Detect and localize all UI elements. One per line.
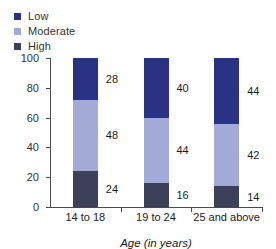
legend-item-moderate: Moderate	[14, 24, 75, 39]
x-category-label: 19 to 24	[121, 212, 192, 223]
bar-segment-moderate[interactable]: 42	[214, 124, 239, 187]
bar-segment-high[interactable]: 16	[144, 183, 169, 207]
legend-swatch-high-icon	[14, 43, 21, 50]
y-tick-label-0: 0	[33, 202, 39, 213]
bar-segment-low[interactable]: 44	[214, 58, 239, 124]
bar-25-and-above[interactable]: 444214	[214, 58, 239, 207]
y-tick-label-100: 100	[21, 53, 39, 64]
y-tick-80: 80	[46, 88, 51, 89]
x-tick-3	[262, 207, 263, 212]
legend-swatch-low-icon	[14, 13, 21, 20]
bar-14-to-18[interactable]: 284824	[73, 58, 98, 207]
bar-value-label: 14	[247, 191, 259, 202]
y-tick-label-60: 60	[27, 113, 39, 124]
legend-label-high: High	[28, 41, 51, 52]
legend-swatch-moderate-icon	[14, 28, 21, 35]
bar-value-label: 48	[106, 130, 118, 141]
legend-label-low: Low	[28, 11, 48, 22]
y-tick-label-20: 20	[27, 172, 39, 183]
bar-value-label: 42	[247, 149, 259, 160]
bar-19-to-24[interactable]: 404416	[144, 58, 169, 207]
bar-segment-low[interactable]: 28	[73, 58, 98, 100]
bar-value-label: 40	[177, 82, 189, 93]
bar-segment-moderate[interactable]: 44	[144, 118, 169, 184]
plot-area: 020406080100 284824404416444214 14 to 18…	[50, 58, 262, 207]
y-tick-100: 100	[46, 58, 51, 59]
y-tick-label-80: 80	[27, 83, 39, 94]
y-axis-line	[50, 58, 51, 207]
bar-segment-high[interactable]: 14	[214, 186, 239, 207]
bar-segment-moderate[interactable]: 48	[73, 100, 98, 172]
x-category-label: 25 and above	[191, 212, 262, 223]
bar-value-label: 44	[177, 145, 189, 156]
x-axis-title: Age (in years)	[50, 237, 262, 249]
legend-item-low: Low	[14, 9, 75, 24]
y-tick-20: 20	[46, 177, 51, 178]
y-tick-60: 60	[46, 118, 51, 119]
y-tick-40: 40	[46, 147, 51, 148]
bar-value-label: 24	[106, 184, 118, 195]
y-tick-0: 0	[46, 207, 51, 208]
legend-label-moderate: Moderate	[28, 26, 75, 37]
chart-legend: Low Moderate High	[14, 9, 75, 54]
x-category-label: 14 to 18	[50, 212, 121, 223]
bar-segment-high[interactable]: 24	[73, 171, 98, 207]
bar-value-label: 28	[106, 73, 118, 84]
bar-segment-low[interactable]: 40	[144, 58, 169, 118]
bar-value-label: 44	[247, 85, 259, 96]
x-axis-line	[50, 207, 262, 208]
bar-value-label: 16	[177, 190, 189, 201]
y-tick-label-40: 40	[27, 142, 39, 153]
